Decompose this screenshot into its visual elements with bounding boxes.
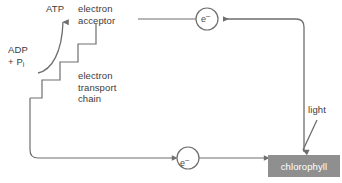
electron-transport-chain-line1: electron	[78, 70, 116, 82]
electron-transport-chain-label: electron transport chain	[78, 70, 116, 105]
electron-bottom-label: e–	[180, 155, 189, 168]
electron-bottom-charge: –	[185, 155, 189, 164]
chlorophyll-box: chlorophyll	[268, 155, 340, 177]
diagram-canvas: ATP electron acceptor ADP + Pi electron …	[0, 0, 342, 183]
electron-transport-chain-line2: transport	[78, 82, 116, 94]
chlorophyll-label: chlorophyll	[268, 155, 340, 177]
electron-acceptor-label-line1: electron	[78, 3, 115, 15]
chlorophyll-to-electron-path	[223, 19, 304, 152]
electron-top-charge: –	[206, 11, 210, 20]
etc-to-electron-return-path	[30, 98, 172, 158]
adp-phosphate-label: ADP + Pi	[8, 44, 28, 68]
inorganic-phosphate-label: + Pi	[8, 56, 28, 69]
electron-transport-chain-line3: chain	[78, 93, 116, 105]
atp-label: ATP	[46, 3, 64, 15]
electron-acceptor-label: electron acceptor	[78, 3, 115, 26]
electron-top-label: e–	[201, 11, 210, 24]
electron-acceptor-label-line2: acceptor	[78, 15, 115, 27]
adp-to-atp-arrow	[38, 22, 63, 73]
adp-label: ADP	[8, 44, 28, 56]
phosphate-subscript: i	[23, 61, 25, 68]
light-label: light	[308, 104, 326, 116]
phosphate-text: + P	[8, 56, 23, 67]
light-arrow	[303, 120, 317, 150]
